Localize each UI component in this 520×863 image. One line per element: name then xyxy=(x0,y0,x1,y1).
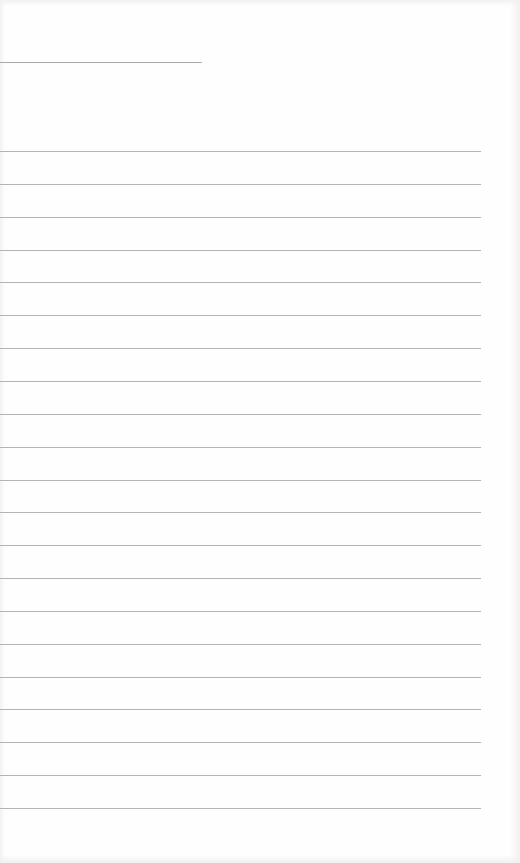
ruled-line xyxy=(0,578,481,579)
ruled-line xyxy=(0,381,481,382)
ruled-line xyxy=(0,545,481,546)
page-edge-right xyxy=(510,0,520,863)
ruled-line xyxy=(0,808,481,809)
page-edge-left xyxy=(0,0,5,863)
ruled-line xyxy=(0,282,481,283)
page-edge-top xyxy=(0,0,520,6)
ruled-line xyxy=(0,447,481,448)
ruled-line xyxy=(0,217,481,218)
page-edge-bottom xyxy=(0,855,520,863)
ruled-line xyxy=(0,315,481,316)
ruled-line xyxy=(0,709,481,710)
ruled-line xyxy=(0,480,481,481)
ruled-line xyxy=(0,151,481,152)
ruled-line xyxy=(0,512,481,513)
ruled-line xyxy=(0,644,481,645)
lined-paper-page xyxy=(0,0,520,863)
ruled-line xyxy=(0,742,481,743)
ruled-line xyxy=(0,677,481,678)
ruled-line xyxy=(0,250,481,251)
ruled-line xyxy=(0,775,481,776)
header-name-line xyxy=(0,62,202,63)
ruled-line xyxy=(0,184,481,185)
ruled-line xyxy=(0,414,481,415)
ruled-line xyxy=(0,611,481,612)
ruled-line xyxy=(0,348,481,349)
